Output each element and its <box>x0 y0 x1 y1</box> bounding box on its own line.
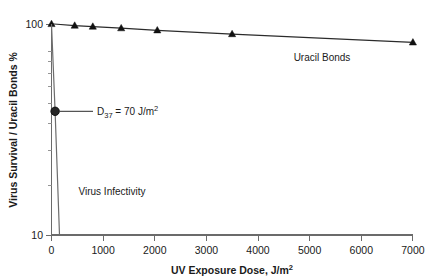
y-axis-title: Virus Survival / Uracil Bonds % <box>7 52 19 208</box>
x-axis-title-superscript: 2 <box>289 263 293 272</box>
virus-infectivity-label: Virus Infectivity <box>78 186 145 197</box>
virus-infectivity-line <box>52 24 60 235</box>
x-tick-label-1000: 1000 <box>91 244 115 256</box>
x-axis-title: UV Exposure Dose, J/m2 <box>171 263 293 276</box>
uracil-bonds-label: Uracil Bonds <box>294 52 351 63</box>
figure-container: 0 1000 2000 3000 4000 5000 6000 7000 100… <box>0 0 442 280</box>
uv-dose-response-chart: 0 1000 2000 3000 4000 5000 6000 7000 100… <box>0 0 442 280</box>
x-axis-title-main: UV Exposure Dose, J/m <box>171 264 289 276</box>
d37-prefix: D <box>97 106 104 117</box>
x-tick-label-4000: 4000 <box>246 244 270 256</box>
y-tick-label-100: 100 <box>25 18 43 30</box>
d37-mid: = 70 J/m <box>113 106 154 117</box>
x-tick-label-0: 0 <box>49 244 55 256</box>
x-tick-label-2000: 2000 <box>143 244 167 256</box>
d37-annotation-label: D37 = 70 J/m2 <box>97 104 158 120</box>
x-tick-label-6000: 6000 <box>350 244 374 256</box>
x-tick-label-5000: 5000 <box>298 244 322 256</box>
y-tick-label-10: 10 <box>31 229 43 241</box>
d37-subscript: 37 <box>104 111 112 120</box>
d37-marker <box>51 107 59 115</box>
x-tick-label-3000: 3000 <box>195 244 219 256</box>
x-tick-label-7000: 7000 <box>401 244 425 256</box>
d37-superscript: 2 <box>154 104 158 113</box>
